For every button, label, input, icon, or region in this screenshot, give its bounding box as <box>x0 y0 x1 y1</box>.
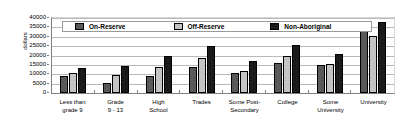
bar <box>198 58 206 93</box>
y-axis-tick-mark <box>47 64 49 65</box>
y-axis-tick-mark <box>47 45 49 46</box>
legend-item: Non-Aboriginal <box>270 22 331 31</box>
legend-item: On-Reserve <box>75 22 126 31</box>
x-axis-category-label: Some Post-Secondary <box>223 98 266 124</box>
x-axis-label-line: 9 - 13 <box>94 106 137 114</box>
bar <box>249 61 257 93</box>
bar <box>317 65 325 94</box>
x-axis-label-line: grade 9 <box>51 106 94 114</box>
y-axis-tick-mark <box>47 36 49 37</box>
y-axis-tick-mark <box>47 92 49 93</box>
legend-color-swatch <box>174 23 183 30</box>
x-axis-label-line: University <box>309 106 352 114</box>
x-axis-category-label: College <box>266 98 309 124</box>
bar <box>274 63 282 93</box>
x-axis-label-line: School <box>137 106 180 114</box>
bar <box>112 75 120 93</box>
x-axis-category-label: Trades <box>180 98 223 124</box>
bar <box>292 45 300 93</box>
x-axis-category-label: University <box>352 98 395 124</box>
bar <box>121 66 129 93</box>
y-axis-tick-label: 25000 <box>29 42 46 48</box>
bar <box>60 76 68 93</box>
x-axis-label-line: Less than <box>51 98 94 106</box>
bar <box>155 67 163 93</box>
y-axis-tick-label: 10000 <box>29 70 46 76</box>
x-axis-label-line: University <box>352 98 395 106</box>
x-axis-label-line: Grade <box>94 98 137 106</box>
bar <box>69 73 77 93</box>
bar <box>164 56 172 93</box>
x-axis-category-label: HighSchool <box>137 98 180 124</box>
bar <box>335 54 343 93</box>
bar <box>283 56 291 93</box>
y-axis-tick-label: 35000 <box>29 23 46 29</box>
bar <box>78 68 86 93</box>
legend-label: Off-Reserve <box>188 23 225 30</box>
bar <box>360 31 368 93</box>
y-axis-tick-label: 40000 <box>29 14 46 20</box>
legend-label: Non-Aboriginal <box>284 23 331 30</box>
y-axis-tick-labels: 4000035000300002500020000150001000050000 <box>16 17 49 94</box>
x-axis-label-line: College <box>266 98 309 106</box>
x-axis-category-label: Less thangrade 9 <box>51 98 94 124</box>
legend-color-swatch <box>270 23 279 30</box>
bar <box>240 71 248 94</box>
bar <box>369 36 377 93</box>
bar <box>103 83 111 93</box>
y-axis-tick-label: 0 <box>43 89 46 95</box>
chart-legend: On-ReserveOff-ReserveNon-Aboriginal <box>62 21 372 32</box>
x-axis-label-line: Some <box>309 98 352 106</box>
y-axis-tick-label: 15000 <box>29 61 46 67</box>
y-axis-tick-mark <box>47 83 49 84</box>
x-axis-category-labels: Less thangrade 9Grade9 - 13HighSchoolTra… <box>51 98 395 124</box>
y-axis-tick-label: 5000 <box>33 80 46 86</box>
x-axis-category-label: SomeUniversity <box>309 98 352 124</box>
x-axis-label-line: Some Post- <box>223 98 266 106</box>
x-axis-category-label: Grade9 - 13 <box>94 98 137 124</box>
bar <box>326 64 334 93</box>
y-axis-tick-mark <box>47 26 49 27</box>
y-axis-tick-label: 30000 <box>29 33 46 39</box>
bar <box>231 73 239 93</box>
legend-item: Off-Reserve <box>174 22 225 31</box>
bar-chart: dollars 40000350003000025000200001500010… <box>0 0 403 125</box>
y-axis-tick-label: 20000 <box>29 52 46 58</box>
x-axis-label-line: High <box>137 98 180 106</box>
bar <box>207 46 215 93</box>
bar <box>189 67 197 93</box>
bar <box>378 22 386 93</box>
legend-color-swatch <box>75 23 84 30</box>
bar <box>146 76 154 93</box>
x-axis-label-line: Secondary <box>223 106 266 114</box>
x-axis-label-line: Trades <box>180 98 223 106</box>
legend-label: On-Reserve <box>89 23 126 30</box>
y-axis-tick-mark <box>47 73 49 74</box>
y-axis-tick-mark <box>47 17 49 18</box>
y-axis-tick-mark <box>47 55 49 56</box>
